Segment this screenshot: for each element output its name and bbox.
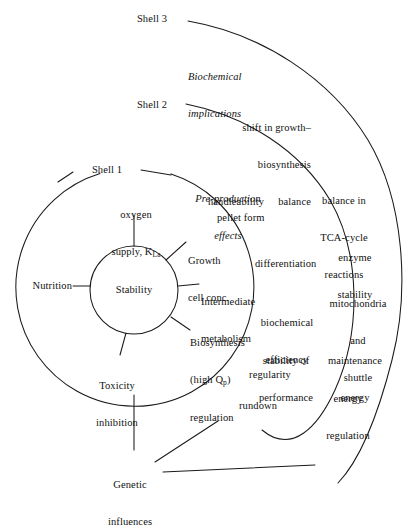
genetic-influences-label: Genetic influences: [108, 455, 152, 529]
oxygen-supply-line2-text: supply, K: [111, 246, 152, 257]
toxicity-inhibition-label: Toxicity inhibition: [96, 356, 138, 454]
energy-regulation-line2: regulation: [326, 430, 370, 442]
shell-1-label-tick-right: [141, 170, 171, 175]
shift-growth-biosynthesis-balance-label: shift in growth– biosynthesis balance: [242, 98, 311, 232]
maintenance-line1: maintenance: [328, 355, 382, 367]
intermediate-line1: Intermediate: [201, 296, 255, 308]
differentiation-label: differentiation: [255, 258, 316, 270]
biosynthesis-line2: (high Qp): [190, 374, 245, 387]
biochemical-implications-line1: Biochemical: [188, 71, 242, 83]
genetic-horizontal-connector: [163, 465, 315, 472]
biosynthesis-subscript: p: [223, 378, 227, 387]
regularity-label: regularity: [249, 369, 291, 381]
shift-line3: balance: [242, 196, 311, 208]
core-label: Stability: [116, 284, 153, 296]
toxicity-line1: Toxicity: [96, 380, 138, 392]
biochemical-implications-label: Biochemical implications: [188, 47, 242, 145]
shell-3-label: Shell 3: [137, 13, 167, 25]
mitochondria-line1: mitochondria: [329, 298, 386, 310]
biosynthesis-line2b: ): [227, 374, 231, 385]
growth-line1: Growth: [188, 255, 229, 267]
spoke-toxicity: [120, 333, 126, 355]
shell-1-label: Shell 1: [92, 164, 122, 176]
biosynthesis-line1: Biosynthesis: [190, 337, 245, 349]
shell-1-label-tick-left: [58, 172, 73, 182]
genetic-line1: Genetic: [108, 479, 152, 491]
oxygen-supply-label: oxygen supply, KLa: [111, 185, 160, 284]
energy-regulation-label: energy regulation: [326, 369, 370, 467]
spoke-growth: [166, 242, 186, 260]
biosynthesis-line2-text: (high Q: [190, 374, 223, 385]
shift-line1: shift in growth–: [242, 122, 311, 134]
oxygen-supply-line2: supply, KLa: [111, 246, 160, 259]
oxygen-supply-line1: oxygen: [111, 209, 160, 221]
toxicity-line2: inhibition: [96, 417, 138, 429]
rundown-label: rundown: [239, 400, 277, 412]
biosynthesis-line3: regulation: [190, 412, 245, 424]
enzyme-line1: enzyme: [338, 252, 373, 264]
shell-2-label: Shell 2: [137, 99, 167, 111]
tca-line1: balance in: [320, 195, 368, 207]
energy-regulation-line1: energy: [326, 393, 370, 405]
oxygen-supply-subscript: La: [153, 250, 161, 259]
biochemical-implications-line2: implications: [188, 108, 242, 120]
biosynthesis-regulation-label: Biosynthesis (high Qp) regulation: [190, 313, 245, 448]
genetic-line2: influences: [108, 516, 152, 528]
nutrition-label: Nutrition: [33, 280, 72, 292]
stability-of-performance-line1: stability of: [259, 355, 313, 367]
biochemical-efficiency-line1: biochemical: [261, 317, 313, 329]
shift-line2: biosynthesis: [242, 159, 311, 171]
